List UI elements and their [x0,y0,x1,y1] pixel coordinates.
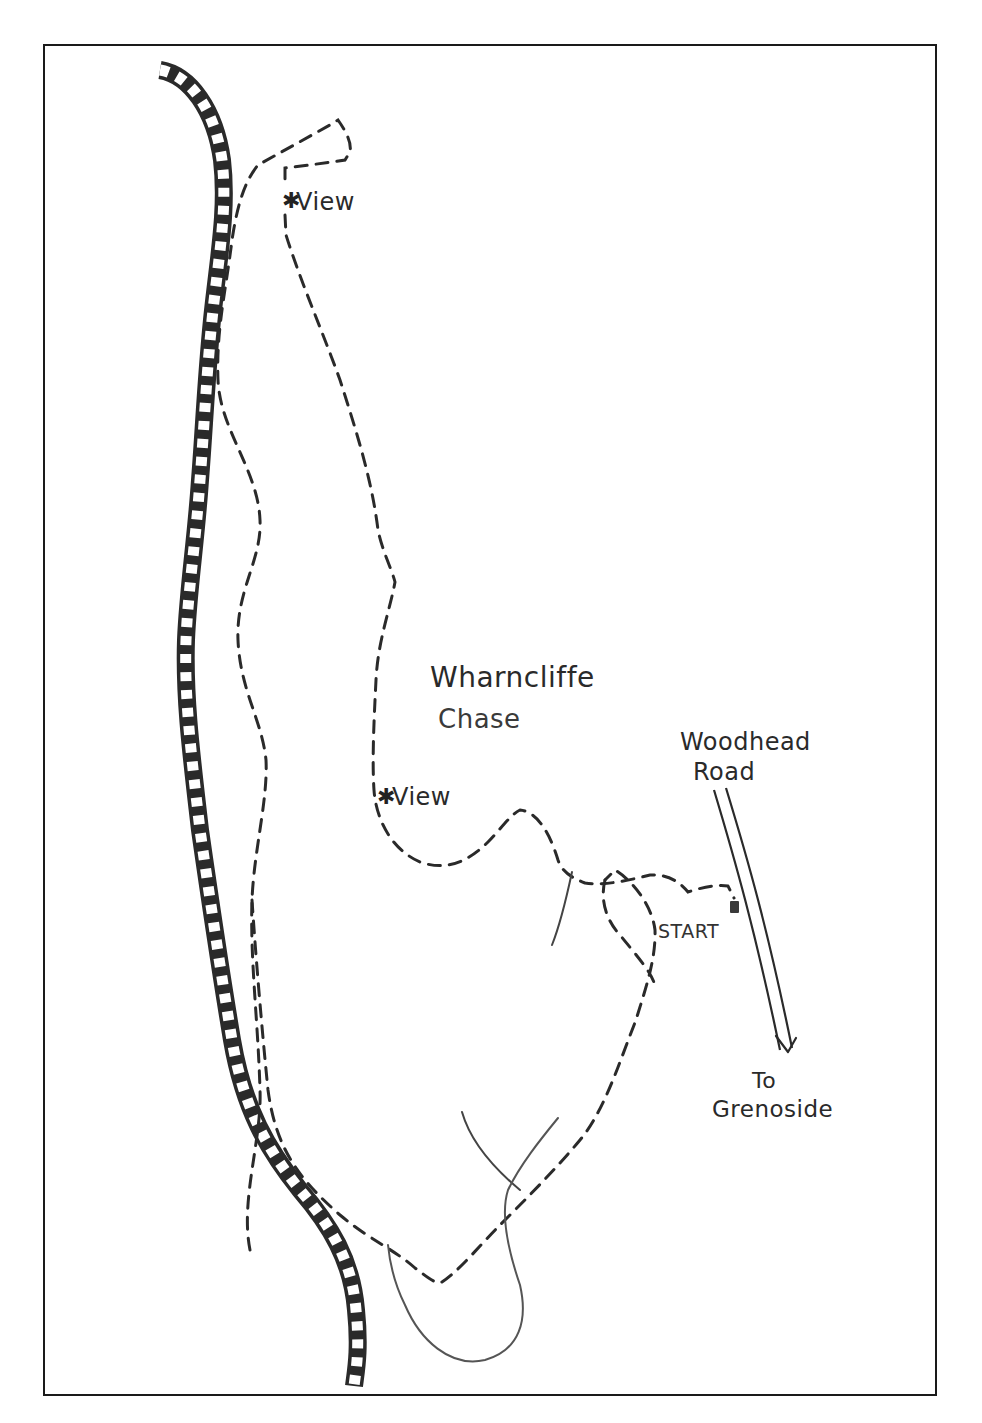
area-name-line2: Chase [438,706,521,732]
start-marker-icon [730,901,739,913]
viewpoint-label-south: View [392,785,451,809]
direction-label-line1: To [752,1070,776,1092]
woodhead-road [714,788,796,1052]
start-label: START [658,922,719,941]
area-name-line1: Wharncliffe [430,664,595,692]
road-name-line1: Woodhead [680,730,811,754]
outer-footpath [218,120,655,1283]
viewpoint-label-north: View [296,190,355,214]
inner-footpath [285,215,734,985]
road-name-line2: Road [693,760,755,784]
direction-label-line2: Grenoside [712,1098,833,1121]
streams [388,872,572,1361]
